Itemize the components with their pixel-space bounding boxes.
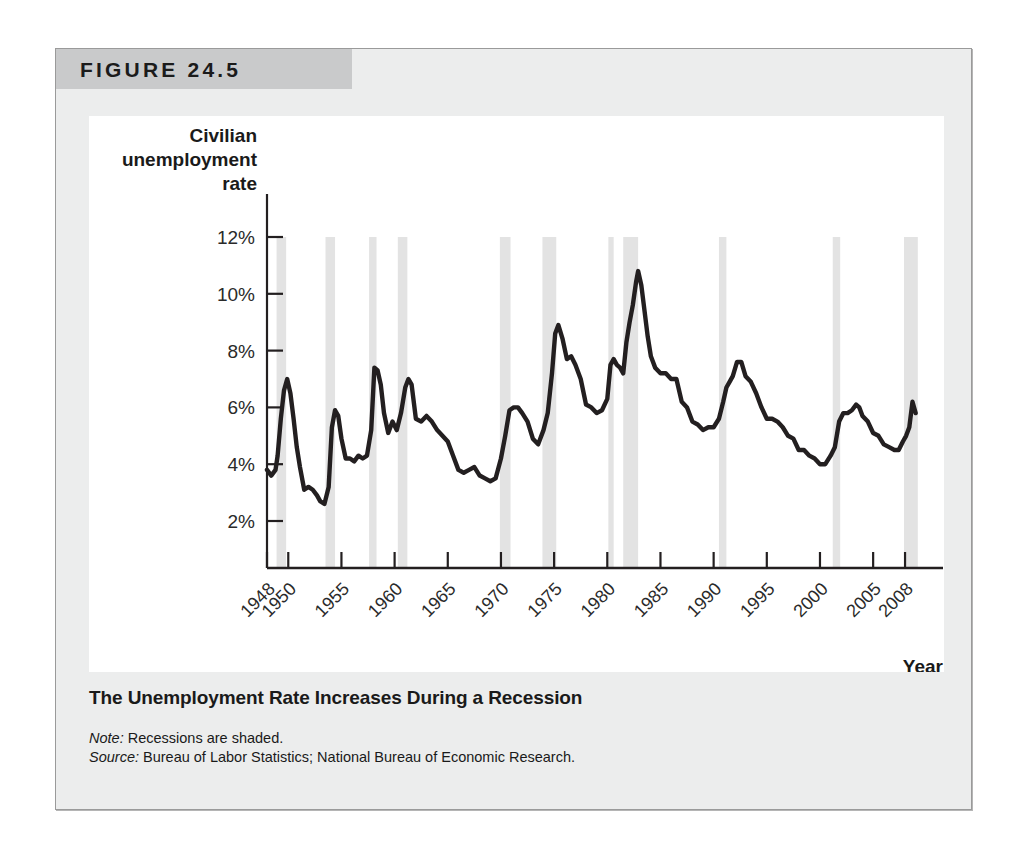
y-axis-title-line: rate xyxy=(222,173,257,194)
source-prefix: Source: xyxy=(89,749,139,765)
source-line: Source: Bureau of Labor Statistics; Nati… xyxy=(89,748,949,767)
caption-title: The Unemployment Rate Increases During a… xyxy=(89,687,949,709)
note-prefix: Note: xyxy=(89,730,124,746)
x-tick-label: 2005 xyxy=(843,579,885,621)
caption-block: The Unemployment Rate Increases During a… xyxy=(89,687,949,767)
x-tick-label: 1960 xyxy=(364,579,406,621)
y-tick-label: 10% xyxy=(217,284,255,305)
recession-band xyxy=(500,237,511,568)
source-text: Bureau of Labor Statistics; National Bur… xyxy=(139,749,575,765)
figure-number-label: FIGURE 24.5 xyxy=(80,58,241,82)
chart-panel: Civilianunemploymentrate 2%4%6%8%10%12% … xyxy=(89,116,944,672)
figure-box: FIGURE 24.5 Civilianunemploymentrate 2%4… xyxy=(55,48,972,810)
recession-band xyxy=(325,237,335,568)
y-axis-title-line: Civilian xyxy=(189,125,257,146)
x-tick-label: 1965 xyxy=(417,579,459,621)
x-axis-title: Year xyxy=(903,656,944,672)
recession-band xyxy=(608,237,613,568)
y-tick-label: 8% xyxy=(228,341,256,362)
axes-group xyxy=(267,194,943,568)
x-tick-label: 1985 xyxy=(630,579,672,621)
x-axis-title: Year xyxy=(903,656,944,672)
x-axis-tick-labels: 1948195019551960196519701975198019851990… xyxy=(236,579,917,621)
x-tick-label: 1955 xyxy=(311,579,353,621)
recession-band xyxy=(833,237,840,568)
x-axis-ticks xyxy=(267,552,905,568)
y-tick-label: 4% xyxy=(228,454,256,475)
x-tick-label: 1975 xyxy=(523,579,565,621)
y-tick-label: 6% xyxy=(228,397,256,418)
x-tick-label: 1980 xyxy=(577,579,619,621)
x-tick-label: 1995 xyxy=(736,579,778,621)
y-axis-tick-labels: 2%4%6%8%10%12% xyxy=(217,227,255,532)
figure-page: FIGURE 24.5 Civilianunemploymentrate 2%4… xyxy=(0,0,1025,857)
note-line: Note: Recessions are shaded. xyxy=(89,729,949,748)
y-axis-title: Civilianunemploymentrate xyxy=(122,125,258,194)
unemployment-line-chart: Civilianunemploymentrate 2%4%6%8%10%12% … xyxy=(89,116,944,672)
x-tick-label: 1970 xyxy=(470,579,512,621)
x-tick-label: 2008 xyxy=(874,579,916,621)
y-tick-label: 2% xyxy=(228,511,256,532)
y-axis-title-line: unemployment xyxy=(122,149,258,170)
x-tick-label: 1990 xyxy=(683,579,725,621)
x-tick-label: 2000 xyxy=(789,579,831,621)
note-text: Recessions are shaded. xyxy=(124,730,284,746)
unemployment-rate-line xyxy=(267,271,916,504)
y-tick-label: 12% xyxy=(217,227,255,248)
